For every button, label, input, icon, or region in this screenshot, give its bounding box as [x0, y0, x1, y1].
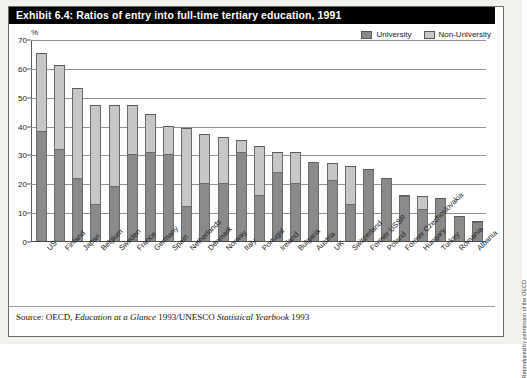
y-tick-label: 50	[18, 93, 27, 102]
bar-segment-nonuniversity	[272, 152, 283, 172]
bar-column[interactable]	[345, 40, 356, 241]
bar-column[interactable]	[72, 40, 83, 241]
y-tick-label: 10	[18, 209, 27, 218]
y-tick-label: 0	[23, 238, 27, 247]
source-prefix: Source: OECD,	[16, 312, 75, 322]
bar-segment-university	[254, 195, 265, 241]
legend-item-university: University	[361, 30, 411, 39]
bar-column[interactable]	[472, 40, 483, 241]
bar-column[interactable]	[199, 40, 210, 241]
bar-segment-nonuniversity	[109, 105, 120, 186]
bar-column[interactable]	[90, 40, 101, 241]
bar-segment-nonuniversity	[417, 196, 428, 209]
bar-column[interactable]	[290, 40, 301, 241]
bar-column[interactable]	[327, 40, 338, 241]
bar-column[interactable]	[36, 40, 47, 241]
bar-segment-university	[36, 131, 47, 241]
source-divider	[9, 306, 495, 307]
bar-segment-nonuniversity	[163, 126, 174, 155]
source-suffix: 1993	[289, 312, 309, 322]
bar-column[interactable]	[145, 40, 156, 241]
bar-column[interactable]	[454, 40, 465, 241]
bar-segment-university	[54, 149, 65, 241]
exhibit-title: Exhibit 6.4: Ratios of entry into full-t…	[9, 7, 495, 24]
source-title-1: Education at a Glance	[75, 312, 156, 322]
source-title-2: Statistical Yearbook	[217, 312, 289, 322]
y-axis-unit-label: %	[31, 28, 38, 37]
source-mid: 1993/UNESCO	[156, 312, 217, 322]
bar-column[interactable]	[381, 40, 392, 241]
bar-column[interactable]	[308, 40, 319, 241]
bar-column[interactable]	[236, 40, 247, 241]
bar-column[interactable]	[127, 40, 138, 241]
y-tick-mark	[27, 184, 31, 185]
bar-column[interactable]	[109, 40, 120, 241]
y-tick-mark	[27, 68, 31, 69]
bar-column[interactable]	[363, 40, 374, 241]
bar-segment-nonuniversity	[345, 166, 356, 204]
bar-segment-nonuniversity	[36, 53, 47, 131]
bar-column[interactable]	[163, 40, 174, 241]
bar-group	[32, 40, 486, 241]
y-tick-mark	[27, 40, 31, 41]
legend-swatch-university	[361, 31, 372, 39]
bar-column[interactable]	[181, 40, 192, 241]
bar-segment-nonuniversity	[199, 134, 210, 183]
bar-segment-nonuniversity	[254, 146, 265, 195]
bar-column[interactable]	[254, 40, 265, 241]
bar-column[interactable]	[417, 40, 428, 241]
source-note: Source: OECD, Education at a Glance 1993…	[16, 312, 309, 322]
y-tick-label: 40	[18, 122, 27, 131]
bar-segment-nonuniversity	[290, 152, 301, 184]
legend-swatch-nonuniversity	[424, 31, 435, 39]
x-axis-labels: USFinlandJapanBelgiumSwedenFranceGermany…	[32, 244, 487, 306]
bar-segment-nonuniversity	[54, 65, 65, 149]
bar-segment-nonuniversity	[72, 88, 83, 177]
bar-column[interactable]	[218, 40, 229, 241]
bar-segment-nonuniversity	[127, 105, 138, 154]
bar-segment-nonuniversity	[90, 105, 101, 203]
y-tick-label: 70	[18, 36, 27, 45]
legend-label-nonuniversity: Non-University	[439, 30, 491, 39]
y-tick-mark	[27, 155, 31, 156]
bar-segment-nonuniversity	[218, 137, 229, 183]
y-tick-label: 30	[18, 151, 27, 160]
bar-segment-nonuniversity	[327, 163, 338, 180]
chart-area: % University Non-University 010203040506…	[9, 26, 495, 306]
bar-segment-university	[345, 204, 356, 242]
reproduction-credit: Reproduced by permission of the OECD	[521, 280, 527, 378]
plot-area: 010203040506070	[31, 40, 486, 242]
y-tick-mark	[27, 242, 31, 243]
y-tick-mark	[27, 126, 31, 127]
chart-legend: University Non-University	[361, 30, 491, 39]
bar-segment-nonuniversity	[145, 114, 156, 152]
y-tick-mark	[27, 97, 31, 98]
bar-segment-university	[145, 152, 156, 241]
legend-label-university: University	[376, 30, 411, 39]
y-tick-label: 60	[18, 64, 27, 73]
bar-segment-nonuniversity	[236, 140, 247, 152]
bar-segment-nonuniversity	[181, 128, 192, 206]
bar-column[interactable]	[272, 40, 283, 241]
bar-column[interactable]	[399, 40, 410, 241]
bar-column[interactable]	[54, 40, 65, 241]
y-tick-mark	[27, 213, 31, 214]
y-tick-label: 20	[18, 180, 27, 189]
legend-item-nonuniversity: Non-University	[424, 30, 491, 39]
